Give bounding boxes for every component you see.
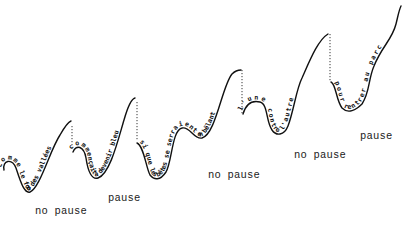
svg-text:pour rentrer au parc: pour rentrer au parc — [333, 42, 385, 111]
svg-text:commençait à devenir bleu: commençait à devenir bleu — [67, 129, 121, 178]
pause-label: no pause — [208, 169, 260, 181]
contour-line-3: si que les bêtes se serraient en bêlant — [137, 70, 241, 179]
line-1-text: comme le fond des vallées — [0, 145, 53, 193]
pause-label: pause — [108, 192, 141, 204]
svg-text:si que les bêtes se serraient: si que les bêtes se serraient en bêlant — [138, 110, 217, 178]
contour-canvas: comme le fond des vallées commençait à d… — [0, 0, 405, 225]
line-3-text: si que les bêtes se serraient en bêlant — [138, 110, 217, 178]
intonation-diagram: comme le fond des vallées commençait à d… — [0, 0, 405, 225]
line-2-text: commençait à devenir bleu — [67, 129, 121, 178]
contour-line-2: commençait à devenir bleu — [67, 98, 135, 179]
contour-line-1: comme le fond des vallées — [0, 121, 71, 193]
line-5-text: pour rentrer au parc — [333, 42, 385, 111]
pause-label: no pause — [35, 205, 87, 217]
svg-text:comme le fond des vallées: comme le fond des vallées — [0, 145, 53, 193]
pause-label: no pause — [294, 149, 346, 161]
contour-line-4: l'une contre l'autre — [236, 34, 328, 134]
pause-label: pause — [360, 130, 393, 142]
contour-line-5: pour rentrer au parc — [331, 6, 401, 111]
